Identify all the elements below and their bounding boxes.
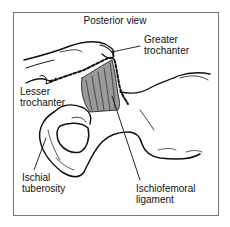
pelvis-inner-lines-3 — [72, 117, 86, 122]
diagram-title: Posterior view — [0, 15, 230, 26]
obturator-foramen — [57, 123, 89, 152]
pelvis-right-lines-2 — [186, 151, 202, 153]
femur-inner-line-2 — [60, 50, 82, 52]
iliac-outline-inner — [180, 76, 208, 80]
leader-greater-trochanter — [112, 46, 140, 52]
pelvis-inner-lines — [48, 130, 60, 160]
pelvis-right-lines — [158, 149, 176, 151]
pelvis-outline — [40, 112, 200, 177]
label-ischiofemoral-ligament: Ischiofemoral ligament — [136, 183, 195, 205]
leader-ischiofemoral — [112, 96, 140, 180]
pelvis-inner-lines-2 — [56, 158, 74, 170]
label-greater-trochanter: Greater trochanter — [144, 34, 189, 56]
iliac-line — [140, 110, 154, 130]
femur-lower-outline — [26, 79, 52, 83]
label-ischial-tuberosity: Ischial tuberosity — [22, 172, 65, 194]
femur-inner-line — [26, 60, 54, 68]
label-lesser-trochanter: Lesser trochanter — [20, 86, 65, 108]
